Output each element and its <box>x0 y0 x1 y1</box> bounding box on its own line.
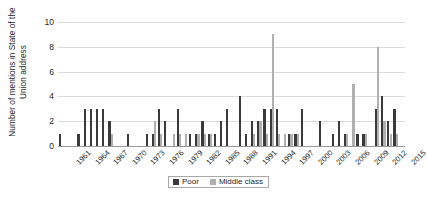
x-axis-tick-label: 1988 <box>242 149 260 167</box>
bar-2005-poor <box>332 134 334 146</box>
bar-1965-poor <box>84 109 86 146</box>
bar-1979-middle-class <box>173 134 175 146</box>
bar-1980-middle-class <box>179 134 181 146</box>
x-axis-tick-label: 1967 <box>112 149 130 167</box>
x-axis-tick-label: 1976 <box>168 149 186 167</box>
bar-1968-poor <box>102 109 104 146</box>
bar-1996-middle-class <box>278 134 280 146</box>
bar-2006-poor <box>338 121 340 146</box>
bar-2015-middle-class <box>396 134 398 146</box>
bar-1967-poor <box>96 109 98 146</box>
legend-label: Poor <box>182 178 199 186</box>
legend-swatch-icon <box>210 179 216 185</box>
bar-2012-middle-class <box>377 47 379 146</box>
x-axis-tick-label: 1991 <box>261 149 279 167</box>
bar-1985-middle-class <box>210 134 212 146</box>
y-axis-tick-label: 10 <box>30 18 54 27</box>
bar-2009-poor <box>356 134 358 146</box>
x-axis-tick-label: 1997 <box>298 149 316 167</box>
bar-1975-poor <box>146 134 148 146</box>
bar-2000-poor <box>301 109 303 146</box>
bar-1999-middle-class <box>297 134 299 146</box>
bar-1986-poor <box>214 134 216 146</box>
bar-2010-middle-class <box>365 134 367 146</box>
y-axis-tick-label: 8 <box>30 43 54 52</box>
bar-1988-poor <box>226 109 228 146</box>
bar-1961-poor <box>59 134 61 146</box>
x-axis-tick-label: 1982 <box>205 149 223 167</box>
bar-1981-middle-class <box>185 134 187 146</box>
x-axis-tick-label: 2009 <box>372 149 390 167</box>
bar-1987-poor <box>220 121 222 146</box>
x-axis-tick-label: 1964 <box>94 149 112 167</box>
bar-1978-poor <box>164 121 166 146</box>
x-axis-tick-label: 1961 <box>75 149 93 167</box>
bar-2013-middle-class <box>383 121 385 146</box>
x-axis-tick-label: 2003 <box>335 149 353 167</box>
bar-1984-middle-class <box>204 134 206 146</box>
bar-2003-poor <box>319 121 321 146</box>
bar-1976-middle-class <box>154 121 156 146</box>
bar-1993-middle-class <box>259 121 261 146</box>
legend-label: Middle class <box>219 178 263 186</box>
chart-legend: PoorMiddle class <box>168 176 269 188</box>
x-axis-tick-label: 1994 <box>280 149 298 167</box>
bar-2014-middle-class <box>390 134 392 146</box>
bar-1972-poor <box>127 134 129 146</box>
bars-layer <box>58 22 405 146</box>
y-axis-tick-label: 0 <box>30 142 54 151</box>
bar-1994-middle-class <box>266 134 268 146</box>
bar-1977-middle-class <box>160 134 162 146</box>
x-axis-tick-label: 1979 <box>187 149 205 167</box>
x-axis-tick-labels: 1961196419671970197319761979198219851988… <box>58 147 405 177</box>
x-axis-tick-label: 1970 <box>131 149 149 167</box>
legend-item-middle[interactable]: Middle class <box>210 178 263 186</box>
x-axis-tick-label: 1985 <box>224 149 242 167</box>
bar-1982-poor <box>189 134 191 146</box>
x-axis-tick-label: 2015 <box>410 149 427 167</box>
bar-2008-middle-class <box>352 84 354 146</box>
bar-1969-middle-class <box>111 134 113 146</box>
y-axis-tick-label: 2 <box>30 117 54 126</box>
bar-1966-poor <box>90 109 92 146</box>
x-axis-tick-label: 2006 <box>354 149 372 167</box>
bar-1995-middle-class <box>272 34 274 146</box>
bar-1991-poor <box>245 134 247 146</box>
bar-1964-poor <box>77 134 79 146</box>
y-axis-tick-label: 6 <box>30 67 54 76</box>
legend-item-poor[interactable]: Poor <box>173 178 199 186</box>
bar-1998-middle-class <box>290 134 292 146</box>
y-axis-tick-label: 4 <box>30 92 54 101</box>
bar-2007-middle-class <box>346 134 348 146</box>
x-axis-tick-label: 1973 <box>149 149 167 167</box>
legend-swatch-icon <box>173 179 179 185</box>
bar-1990-poor <box>239 96 241 146</box>
x-axis-tick-label: 2012 <box>391 149 409 167</box>
y-axis-tick-labels: 0246810 <box>30 15 54 149</box>
plot-area <box>58 22 405 146</box>
bar-1983-middle-class <box>197 134 199 146</box>
x-axis-tick-label: 2000 <box>317 149 335 167</box>
bar-1997-middle-class <box>284 134 286 146</box>
bar-1992-middle-class <box>253 134 255 146</box>
